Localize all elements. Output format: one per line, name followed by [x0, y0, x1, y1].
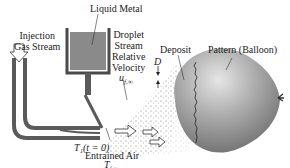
temperature-leader [106, 128, 110, 140]
deposit-label: Deposit [160, 44, 191, 55]
entrained-air-temperature: Tf,∞ [104, 159, 118, 168]
spray-deposition-diagram [0, 0, 290, 168]
velocity-subscript: f,∞ [124, 78, 133, 86]
pattern-label: Pattern (Balloon) [208, 44, 277, 55]
droplet-line2: Stream [112, 40, 145, 51]
velocity-symbol: uf,∞ [119, 72, 133, 88]
droplet-velocity-label: Droplet Stream Relative Velocity [112, 29, 145, 73]
injection-line1: Injection [14, 30, 60, 41]
entrained-subscript: f,∞ [110, 165, 119, 168]
droplet-line1: Droplet [112, 29, 145, 40]
droplet-line3: Relative [112, 51, 145, 62]
diameter-dimension [156, 66, 160, 88]
liquid-metal-label: Liquid Metal [90, 3, 143, 14]
diameter-label: D [154, 56, 161, 67]
liquid-metal-crucible [67, 28, 109, 95]
droplet-spray [98, 62, 190, 158]
injection-gas-label: Injection Gas Stream [14, 30, 60, 52]
injection-line2: Gas Stream [14, 41, 60, 52]
